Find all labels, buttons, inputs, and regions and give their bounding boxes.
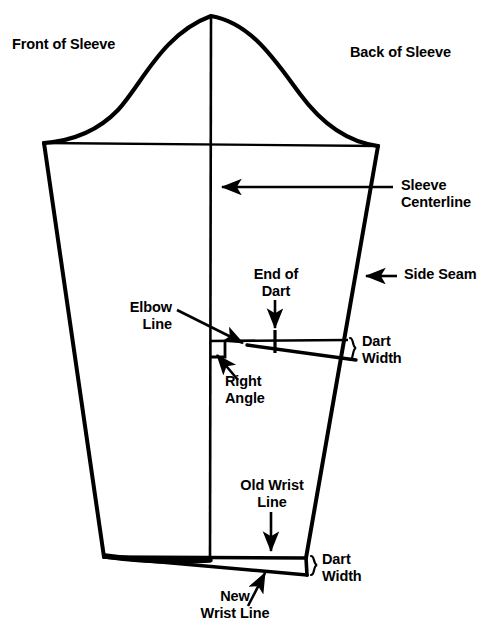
- label-dart-width-wrist: Dart Width: [322, 551, 362, 584]
- sleeve-centerline: [210, 16, 211, 558]
- label-right-angle: Right Angle: [225, 373, 265, 406]
- label-back-of-sleeve: Back of Sleeve: [350, 44, 451, 61]
- elbow-dart-leg: [247, 345, 356, 360]
- label-old-wrist-line: Old Wrist Line: [218, 477, 326, 510]
- label-side-seam: Side Seam: [404, 266, 476, 283]
- label-end-of-dart: End of Dart: [234, 266, 318, 299]
- label-new-wrist-line: New Wrist Line: [180, 588, 290, 621]
- dart-width-brace-elbow: [350, 338, 356, 360]
- dart-width-brace-wrist: [311, 556, 317, 575]
- sleeve-pattern-diagram: Front of Sleeve Back of Sleeve Sleeve Ce…: [0, 0, 495, 636]
- label-elbow-line: Elbow Line: [66, 299, 172, 332]
- label-front-of-sleeve: Front of Sleeve: [12, 36, 115, 53]
- label-dart-width-elbow: Dart Width: [362, 333, 402, 366]
- label-sleeve-centerline: Sleeve Centerline: [401, 177, 471, 210]
- wrist-dart-closure: [306, 558, 307, 575]
- elbow-line: [210, 340, 348, 341]
- front-side-seam: [44, 143, 104, 557]
